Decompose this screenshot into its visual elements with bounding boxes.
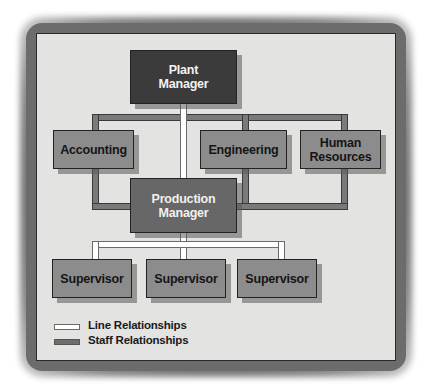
node-label: Supervisor bbox=[245, 272, 308, 286]
node-label: Human Resources bbox=[309, 136, 371, 164]
legend-line-swatch bbox=[54, 324, 80, 330]
node-supervisor-1: Supervisor bbox=[52, 259, 132, 298]
legend-staff-swatch bbox=[54, 339, 80, 345]
staff-line-top bbox=[92, 114, 348, 121]
node-label: Engineering bbox=[208, 143, 278, 157]
node-supervisor-2: Supervisor bbox=[146, 259, 226, 298]
node-label: Supervisor bbox=[154, 272, 217, 286]
staff-line-accounting-pm bbox=[92, 203, 134, 210]
node-engineering: Engineering bbox=[200, 130, 287, 169]
line-supervisor-3 bbox=[278, 241, 285, 261]
legend-line-label: Line Relationships bbox=[88, 319, 187, 331]
node-accounting: Accounting bbox=[53, 130, 134, 169]
node-label: Production Manager bbox=[152, 192, 216, 220]
staff-line-right-pm bbox=[234, 203, 348, 210]
legend-staff-label: Staff Relationships bbox=[88, 334, 188, 346]
line-plant-to-production bbox=[180, 102, 187, 182]
node-label: Supervisor bbox=[60, 272, 123, 286]
node-supervisor-3: Supervisor bbox=[237, 259, 317, 298]
line-supervisor-1 bbox=[92, 241, 99, 261]
node-label: Accounting bbox=[60, 143, 127, 157]
node-production-manager: Production Manager bbox=[130, 178, 237, 233]
line-supervisor-horizontal bbox=[92, 241, 285, 248]
node-human-resources: Human Resources bbox=[300, 130, 381, 169]
node-label: Plant Manager bbox=[158, 63, 208, 91]
node-plant-manager: Plant Manager bbox=[130, 50, 237, 104]
